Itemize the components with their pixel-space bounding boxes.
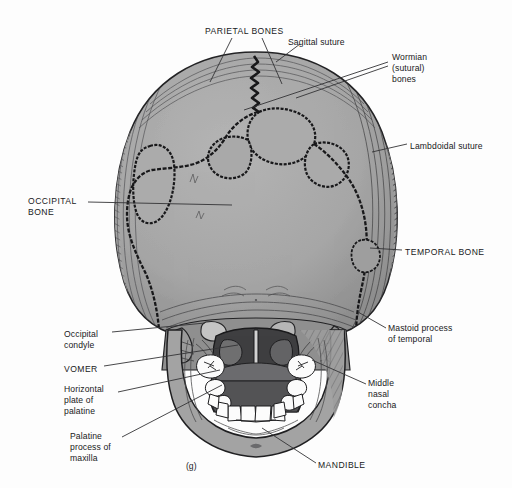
label-occipital-condyle: Occipital condyle	[64, 329, 98, 351]
label-lambdoidal-suture: Lambdoidal suture	[410, 141, 483, 152]
label-parietal-bones: PARIETAL BONES	[205, 26, 284, 37]
label-temporal-bone: TEMPORAL BONE	[405, 247, 485, 258]
label-middle-nasal-concha: Middle nasal concha	[368, 378, 396, 412]
wormian-bone-right-lower	[351, 240, 380, 273]
figure-caption: (g)	[186, 461, 197, 471]
label-occipital-bone: OCCIPITAL BONE	[28, 196, 77, 218]
label-mandible: MANDIBLE	[318, 460, 366, 471]
label-wormian-sutural-bones: Wormian (sutural) bones	[392, 52, 427, 86]
label-sagittal-suture: Sagittal suture	[288, 37, 345, 48]
label-vomer: VOMER	[64, 364, 98, 375]
label-horizontal-plate-of-palatine: Horizontal plate of palatine	[64, 384, 104, 418]
label-mastoid-process-of-temporal: Mastoid process of temporal	[388, 323, 452, 345]
skull-figure: PARIETAL BONESSagittal sutureWormian (su…	[0, 0, 512, 488]
label-palatine-process-of-maxilla: Palatine process of maxilla	[70, 431, 111, 465]
